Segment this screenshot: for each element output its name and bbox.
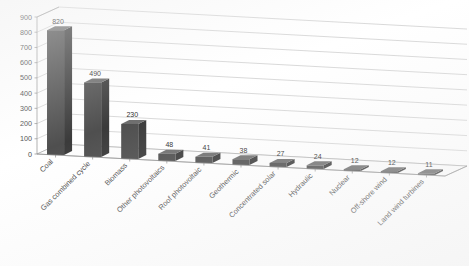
bar-front-face (158, 154, 175, 161)
y-axis-tick-label: 0 (28, 150, 32, 159)
y-axis-tick-label: 500 (20, 73, 32, 82)
bar-front-face (47, 30, 64, 155)
bar-front-face (121, 124, 138, 159)
bar-side-face (101, 78, 109, 157)
chart-canvas: 0100200300400500600700800900820Coal490Ga… (0, 0, 469, 266)
y-axis-tick-label: 800 (20, 28, 32, 37)
bar-value-label: 820 (52, 18, 64, 25)
bar-side-face (138, 120, 146, 159)
bar-group (84, 78, 109, 157)
y-axis-tick-label: 300 (20, 104, 32, 113)
bar-value-label: 11 (425, 161, 432, 168)
bar-group (47, 26, 72, 155)
y-axis-tick-label: 700 (20, 43, 32, 52)
bar-value-label: 38 (240, 147, 248, 154)
bar-value-label: 24 (314, 153, 322, 160)
y-axis-tick-label: 100 (20, 134, 32, 143)
y-axis-tick-label: 900 (20, 13, 32, 22)
x-axis-category-label: Nuclear (327, 173, 352, 198)
y-axis-tick-label: 600 (20, 58, 32, 67)
wall-top-edge (37, 7, 59, 17)
y-axis-tick-label: 200 (20, 119, 32, 128)
x-axis-category-label: Geothermic (207, 167, 241, 201)
bar-front-face (84, 82, 101, 157)
bar-front-face (195, 157, 212, 163)
bar-value-label: 12 (388, 159, 396, 166)
bar-group (121, 120, 146, 159)
x-axis-category-label: Biomass (103, 161, 130, 188)
x-axis-category-label: Coal (38, 157, 55, 174)
bar-value-label: 12 (351, 157, 359, 164)
bar-side-face (64, 26, 72, 155)
x-axis-category-label: Off-shore wind (349, 175, 389, 215)
bar-value-label: 48 (165, 141, 173, 148)
bar-value-label: 27 (277, 150, 285, 157)
bar-value-label: 41 (203, 144, 211, 151)
y-axis-tick-label: 400 (20, 89, 32, 98)
bar-chart: 0100200300400500600700800900820Coal490Ga… (0, 0, 469, 266)
bar-value-label: 230 (126, 111, 138, 118)
bar-value-label: 490 (89, 70, 101, 77)
bar-front-face (232, 159, 249, 165)
x-axis-category-label: Hydraulic (286, 171, 314, 199)
